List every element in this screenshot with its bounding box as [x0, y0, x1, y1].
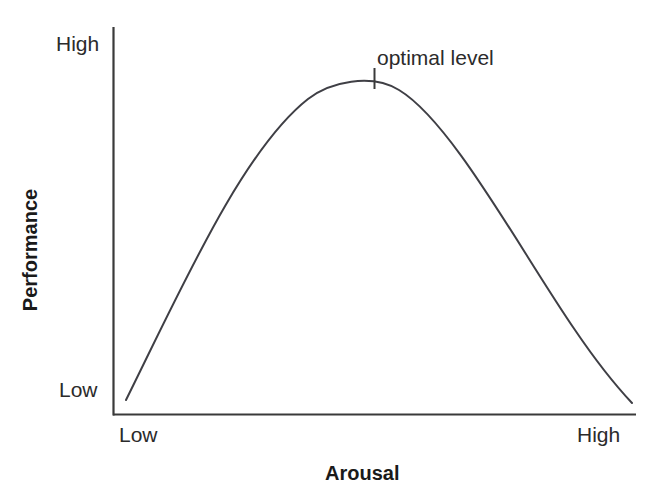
chart-canvas: Performance High Low Low High Arousal op… [0, 0, 665, 497]
y-axis-title-text: Performance [20, 189, 40, 311]
y-axis-tick-high: High [56, 33, 99, 54]
inverted-u-curve [126, 81, 632, 403]
chart-plot-area [0, 0, 665, 497]
x-axis-tick-high: High [577, 424, 620, 445]
y-axis-tick-low: Low [59, 379, 98, 400]
y-axis-title: Performance [10, 150, 50, 350]
x-axis-title: Arousal [325, 463, 399, 483]
x-axis-tick-low: Low [119, 424, 158, 445]
optimal-level-annotation: optimal level [377, 47, 494, 68]
